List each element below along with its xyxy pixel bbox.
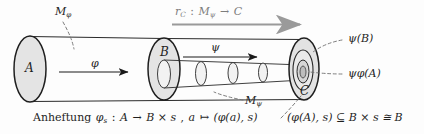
leader-psi-b [313,40,342,52]
label-psi-phi-a: ψφ(A) [348,68,381,79]
mapping-cylinder-diagram: Mφ rC : Mψ → C A B C φ ψ ψ(B) ψφ(A) Mψ A… [0,0,424,134]
label-psi-b: ψ(B) [348,33,373,44]
label-disc-c: C [300,85,309,97]
label-phi-map: φ [91,58,99,69]
caption-anheftung: Anheftung φs : A → B × s , a ↦ (φ(a), s) [33,112,257,124]
leader-m-psi [214,92,243,100]
label-m-psi: Mψ [245,95,262,107]
label-rc-map: rC : Mψ → C [175,6,242,18]
label-psi-map: ψ [211,42,220,53]
leader-m-phi [63,22,74,49]
formula-subset-relation: (φ(A), s) ⊆ B × s ≅ B [287,112,403,123]
label-m-phi: Mφ [55,6,71,18]
label-disc-b: B [160,46,169,58]
label-disc-a: A [25,62,34,74]
